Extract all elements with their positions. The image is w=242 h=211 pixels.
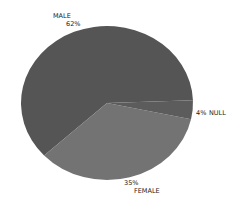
pie-slices xyxy=(21,26,193,180)
label-female-name: FEMALE xyxy=(134,188,160,195)
label-male-name: MALE xyxy=(53,13,71,20)
label-female-pct: 35% xyxy=(124,180,138,187)
label-male-pct: 62% xyxy=(66,21,80,28)
label-null-name: NULL xyxy=(209,110,226,117)
pie-chart xyxy=(0,0,242,211)
label-null-pct: 4% xyxy=(196,110,206,117)
